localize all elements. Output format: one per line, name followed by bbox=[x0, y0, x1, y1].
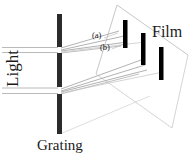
label-film: Film bbox=[152, 24, 182, 40]
film-bar-3 bbox=[159, 47, 164, 80]
film-bar-2 bbox=[141, 33, 146, 65]
figure-canvas: Light Grating Film (a) (b) bbox=[0, 0, 191, 159]
label-order-b: (b) bbox=[100, 43, 110, 52]
lower-diffracted-fan bbox=[61, 60, 163, 94]
grating-bar bbox=[57, 14, 62, 134]
bench-depth-edges bbox=[60, 96, 150, 134]
label-grating: Grating bbox=[37, 138, 83, 153]
label-light: Light bbox=[4, 50, 21, 87]
label-order-a: (a) bbox=[92, 31, 101, 40]
film-bar-1 bbox=[123, 20, 128, 48]
